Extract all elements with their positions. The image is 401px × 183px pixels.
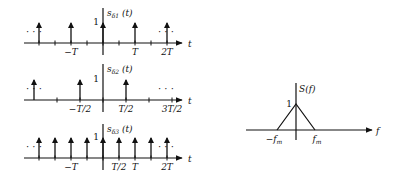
peak-label: 1	[93, 132, 99, 142]
impulse-arrowhead	[123, 79, 129, 85]
spectrum-plot: S(f)1f−fmfm	[246, 83, 381, 145]
impulse-arrowhead	[132, 22, 138, 28]
tick-label: T	[132, 47, 139, 57]
right-ellipsis: · · ·	[158, 141, 174, 152]
pos-fm-label: fm	[311, 134, 321, 145]
right-ellipsis: · · ·	[158, 83, 174, 94]
signal-label: sδ2 (t)	[107, 64, 133, 75]
peak-label: 1	[93, 74, 99, 84]
impulse-arrowhead	[100, 22, 106, 28]
tick-label: T	[132, 162, 139, 172]
tick-label: 3T/2	[162, 104, 183, 114]
signal-label: sδ1 (t)	[107, 8, 133, 19]
impulse-arrowhead	[68, 22, 74, 28]
diagram-canvas: · · ·· · ·1sδ1 (t)t−TT2T· · ·· · ·1sδ2 (…	[0, 0, 401, 183]
peak-label: 1	[93, 17, 99, 27]
left-ellipsis: · · ·	[26, 141, 42, 152]
impulse-arrowhead	[100, 137, 106, 143]
impulse-train-panel-2: · · ·· · ·1sδ2 (t)t−T/2T/23T/2	[24, 64, 192, 114]
impulse-arrowhead	[132, 137, 138, 143]
tick-label: 2T	[160, 162, 174, 172]
time-axis-label: t	[188, 96, 192, 106]
signal-label: sδ3 (t)	[107, 124, 133, 135]
spectrum-peak-label: 1	[286, 99, 292, 109]
left-ellipsis: · · ·	[26, 83, 42, 94]
impulse-arrowhead	[116, 137, 122, 143]
impulse-arrowhead	[77, 79, 83, 85]
impulse-train-panel-1: · · ·· · ·1sδ1 (t)t−TT2T	[24, 8, 192, 57]
impulse-arrowhead	[52, 137, 58, 143]
impulse-train-panel-3: · · ·· · ·1sδ3 (t)t−TT/2T2T	[24, 124, 192, 172]
spectrum-label: S(f)	[299, 84, 316, 94]
time-axis-label: t	[188, 39, 192, 49]
frequency-axis-label: f	[375, 126, 381, 136]
tick-label: 2T	[160, 47, 174, 57]
tick-label: −T/2	[69, 104, 92, 114]
tick-label: −T	[64, 47, 79, 57]
right-ellipsis: · · ·	[158, 26, 174, 37]
tick-label: −T	[64, 162, 79, 172]
time-axis-label: t	[188, 154, 192, 164]
left-ellipsis: · · ·	[26, 26, 42, 37]
impulse-arrowhead	[84, 137, 90, 143]
impulse-arrowhead	[148, 137, 154, 143]
tick-label: T/2	[119, 104, 134, 114]
tick-label: T/2	[112, 162, 127, 172]
impulse-arrowhead	[68, 137, 74, 143]
neg-fm-label: −fm	[266, 134, 283, 145]
